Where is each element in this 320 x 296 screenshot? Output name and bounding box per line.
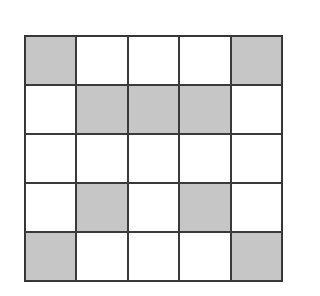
empty-cell [128, 134, 179, 183]
empty-cell [76, 134, 127, 183]
empty-cell [25, 183, 76, 232]
empty-cell [231, 134, 282, 183]
empty-cell [179, 232, 230, 281]
empty-cell [231, 85, 282, 134]
shaded-cell [231, 36, 282, 85]
shaded-cell [76, 183, 127, 232]
shaded-cell [25, 232, 76, 281]
shaded-grid [24, 35, 283, 282]
empty-cell [128, 36, 179, 85]
empty-cell [25, 85, 76, 134]
empty-cell [179, 36, 230, 85]
empty-cell [179, 134, 230, 183]
shaded-cell [76, 85, 127, 134]
empty-cell [76, 36, 127, 85]
empty-cell [25, 134, 76, 183]
shaded-cell [179, 85, 230, 134]
empty-cell [128, 183, 179, 232]
shaded-cell [128, 85, 179, 134]
empty-cell [231, 183, 282, 232]
empty-cell [128, 232, 179, 281]
shaded-cell [231, 232, 282, 281]
empty-cell [76, 232, 127, 281]
shaded-cell [179, 183, 230, 232]
shaded-cell [25, 36, 76, 85]
